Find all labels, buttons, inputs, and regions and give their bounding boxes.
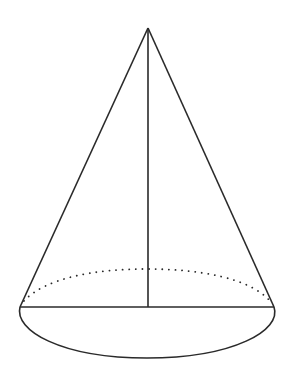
base-front-arc	[19, 307, 274, 358]
cone-diagram	[0, 0, 293, 374]
right-slant-edge	[148, 28, 274, 307]
left-slant-edge	[20, 28, 148, 307]
base-back-arc	[24, 269, 270, 301]
cone-figure	[0, 0, 293, 374]
